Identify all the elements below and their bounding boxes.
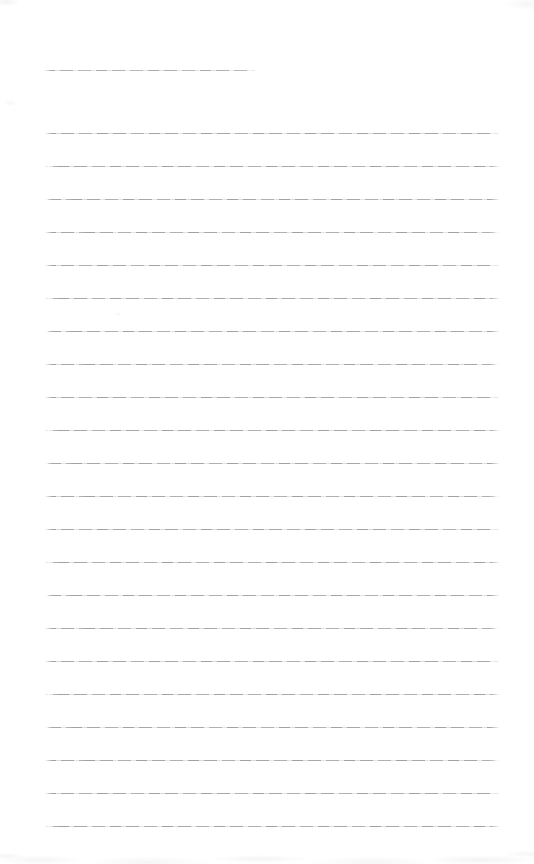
rule-texture (45, 364, 500, 365)
ruled-line (45, 199, 500, 200)
rule-texture (45, 529, 500, 530)
ruled-line (45, 166, 500, 167)
ruled-line (45, 826, 500, 827)
ruled-line (45, 793, 500, 794)
rule-texture (45, 694, 500, 695)
rule-texture (44, 70, 256, 71)
ruled-line (45, 529, 500, 530)
ruled-line (45, 298, 500, 299)
rule-texture (45, 232, 500, 233)
ruled-line (45, 562, 500, 563)
ruled-line (45, 727, 500, 728)
ruled-line (45, 661, 500, 662)
ruled-line (45, 397, 500, 398)
ruled-line (45, 496, 500, 497)
rule-texture (45, 331, 500, 332)
rule-texture (45, 628, 500, 629)
rule-texture (45, 793, 500, 794)
ruled-line (45, 463, 500, 464)
rule-texture (45, 397, 500, 398)
ruled-line (45, 760, 500, 761)
rule-texture (45, 562, 500, 563)
rule-texture (45, 661, 500, 662)
notebook-page (0, 0, 534, 864)
rule-texture (45, 265, 500, 266)
ruled-line (45, 595, 500, 596)
rule-texture (45, 595, 500, 596)
rule-texture (45, 463, 500, 464)
ruled-line (45, 133, 500, 134)
rule-texture (45, 430, 500, 431)
ruled-line (45, 364, 500, 365)
ruled-line (45, 265, 500, 266)
ruled-line (45, 628, 500, 629)
rule-texture (45, 199, 500, 200)
ruled-line (45, 331, 500, 332)
bottom-scan-noise (0, 844, 534, 864)
ruled-line (45, 430, 500, 431)
rule-texture (45, 133, 500, 134)
rule-texture (45, 826, 500, 827)
rule-texture (45, 496, 500, 497)
rule-texture (45, 298, 500, 299)
ruled-line (45, 232, 500, 233)
rule-texture (45, 166, 500, 167)
rule-texture (45, 727, 500, 728)
ruled-line (45, 694, 500, 695)
title-rule-line (44, 70, 256, 71)
rule-texture (45, 760, 500, 761)
